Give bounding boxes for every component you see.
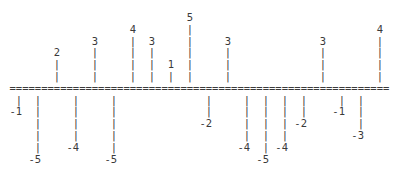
bar-segment: | [149,71,155,83]
bar-value-label: 4 [73,142,79,154]
bar-segment: | [187,71,193,83]
baseline-segment: = [383,83,389,95]
bar-segment: | [168,71,174,83]
bar-segment: | [111,142,117,154]
bar-value-label: 4 [377,24,383,36]
bar-segment: | [187,24,193,36]
bar-value-label: 4 [130,24,136,36]
bar-value-label: 2 [301,118,307,130]
bar-segment: | [35,142,41,154]
bar-value-label: 1 [168,59,174,71]
bar-value-label: 2 [206,118,212,130]
ascii-bar-chart: ========================================… [10,12,390,166]
bar-value-label: 4 [282,142,288,154]
bar-segment: | [225,71,231,83]
bar-value-label: 5 [111,154,117,166]
bar-value-label: 3 [149,36,155,48]
bar-segment: | [130,71,136,83]
bar-value-label: 5 [187,12,193,24]
bar-segment: | [263,142,269,154]
bar-value-label: 5 [35,154,41,166]
bar-segment: | [320,71,326,83]
bar-value-label: 4 [244,142,250,154]
bar-value-label: 3 [225,36,231,48]
bar-segment: | [377,71,383,83]
bar-value-label: 3 [358,130,364,142]
bar-value-label: 2 [54,47,60,59]
bar-value-label: 1 [339,106,345,118]
bar-value-label: 1 [16,106,22,118]
bar-value-label: 5 [263,154,269,166]
bar-segment: | [54,71,60,83]
bar-value-label: 3 [320,36,326,48]
bar-segment: | [92,71,98,83]
bar-value-label: 3 [92,36,98,48]
